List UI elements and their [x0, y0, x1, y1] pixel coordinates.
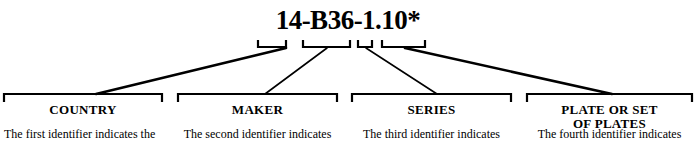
- segment-label-maker-line1: MAKER: [232, 102, 283, 117]
- code-segment-bracket-maker: [303, 41, 350, 47]
- segment-label-maker: MAKER: [178, 103, 337, 117]
- connector-series: [366, 48, 437, 94]
- code-segment-bracket-country: [258, 41, 286, 47]
- segment-description-maker: The second identifier indicates: [176, 128, 339, 141]
- segment-description-plate: The fourth identifier indicates: [525, 128, 694, 141]
- connector-plate: [405, 48, 612, 94]
- identifier-code-diagram: 14-B36-1.10*: [0, 0, 696, 142]
- segment-label-plate-line1: PLATE OR SET: [527, 103, 692, 117]
- label-bracket-maker: [178, 94, 337, 101]
- connector-maker: [265, 48, 327, 94]
- segment-label-series-line1: SERIES: [407, 102, 455, 117]
- segment-description-country: The first identifier indicates the: [4, 128, 162, 141]
- segment-label-country-line1: COUNTRY: [49, 102, 116, 117]
- label-bracket-series: [352, 94, 511, 101]
- segment-label-country: COUNTRY: [4, 103, 162, 117]
- connector-country: [96, 48, 286, 94]
- code-segment-bracket-plate: [382, 41, 425, 47]
- segment-label-series: SERIES: [352, 103, 511, 117]
- segment-description-series: The third identifier indicates: [350, 128, 513, 141]
- code-segment-bracket-series: [358, 41, 372, 47]
- label-bracket-plate: [527, 94, 692, 101]
- label-bracket-country: [4, 94, 162, 101]
